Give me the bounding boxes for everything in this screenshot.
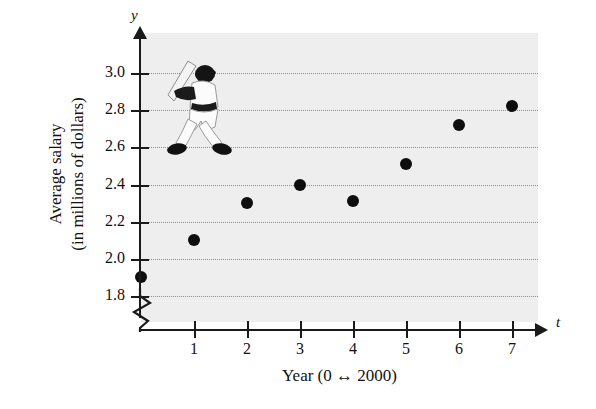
- x-tick-2: [247, 321, 249, 338]
- y-tick-2.0: [131, 259, 149, 261]
- y-tick-label-2.2: 2.2: [85, 213, 125, 229]
- y-tick-3.0: [131, 73, 149, 75]
- y-tick-label-2.6: 2.6: [85, 138, 125, 154]
- y-tick-label-1.8: 1.8: [85, 287, 125, 303]
- x-tick-label-6: 6: [446, 340, 472, 358]
- data-point-t5: [400, 158, 412, 170]
- x-tick-label-2: 2: [234, 340, 260, 358]
- y-axis: [139, 36, 141, 318]
- x-axis-arrow-icon: [535, 323, 548, 337]
- y-axis-break-icon: [130, 288, 154, 332]
- y-axis-arrow-icon: [133, 26, 147, 39]
- data-point-t3: [294, 179, 306, 191]
- baseball-batter-illustration: [158, 57, 242, 161]
- x-tick-1: [194, 321, 196, 338]
- x-axis-variable-label: t: [556, 314, 560, 331]
- y-tick-1.8: [131, 296, 149, 298]
- x-tick-label-5: 5: [393, 340, 419, 358]
- y-tick-2.2: [131, 222, 149, 224]
- y-tick-2.8: [131, 110, 149, 112]
- x-tick-label-7: 7: [499, 340, 525, 358]
- y-tick-label-2.4: 2.4: [85, 176, 125, 192]
- y-tick-2.4: [131, 185, 149, 187]
- y-axis-title: Average salary (in millions of dollars): [45, 44, 89, 304]
- x-tick-3: [300, 321, 302, 338]
- gridline-2.2: [141, 222, 538, 223]
- chart-figure: 1.82.02.22.42.62.83.0 1234567 y t Year (…: [0, 0, 596, 409]
- y-axis-title-line-2: (in millions of dollars): [67, 44, 89, 304]
- gridline-2.4: [141, 185, 538, 186]
- x-tick-label-4: 4: [340, 340, 366, 358]
- x-tick-4: [353, 321, 355, 338]
- gridline-2.0: [141, 259, 538, 260]
- data-point-t6: [453, 119, 465, 131]
- y-tick-label-2.8: 2.8: [85, 101, 125, 117]
- y-tick-label-3.0: 3.0: [85, 64, 125, 80]
- gridline-1.8: [141, 296, 538, 297]
- x-axis-title: Year (0 ↔ 2000): [141, 366, 538, 386]
- x-tick-7: [512, 321, 514, 338]
- data-point-t2: [241, 197, 253, 209]
- x-tick-label-1: 1: [181, 340, 207, 358]
- y-tick-label-2.0: 2.0: [85, 250, 125, 266]
- x-tick-5: [406, 321, 408, 338]
- y-axis-variable-label: y: [131, 7, 138, 24]
- y-tick-2.6: [131, 147, 149, 149]
- x-tick-6: [459, 321, 461, 338]
- x-tick-label-3: 3: [287, 340, 313, 358]
- x-axis: [141, 329, 536, 331]
- y-axis-title-line-1: Average salary: [45, 44, 67, 304]
